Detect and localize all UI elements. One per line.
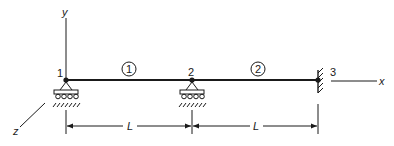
node-1-label: 1 xyxy=(57,67,63,79)
dimension-1: L xyxy=(67,120,191,132)
dimension-extension-lines xyxy=(66,104,318,134)
beam-diagram: y x z 1 2 1 2 xyxy=(0,0,394,146)
roller-support-icon xyxy=(179,82,206,107)
svg-text:1: 1 xyxy=(126,63,132,75)
roller-support-icon xyxy=(53,82,80,107)
element-2-label: 2 xyxy=(251,62,265,76)
node-2-label: 2 xyxy=(188,66,194,78)
x-axis: x xyxy=(331,75,385,87)
node-1: 1 xyxy=(57,67,69,83)
x-axis-label: x xyxy=(378,75,385,87)
node-3-label: 3 xyxy=(330,66,336,78)
dimension-2-label: L xyxy=(253,120,259,132)
z-axis-label: z xyxy=(12,125,19,137)
svg-text:2: 2 xyxy=(255,63,261,75)
z-axis: z xyxy=(12,103,45,137)
y-axis-label: y xyxy=(61,6,69,18)
element-1-label: 1 xyxy=(122,62,136,76)
dimension-1-label: L xyxy=(127,120,133,132)
dimension-2: L xyxy=(193,120,317,132)
